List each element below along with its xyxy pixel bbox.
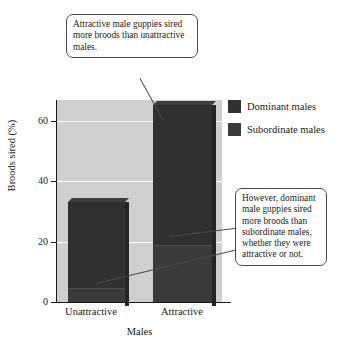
legend-item-dominant-males[interactable]: Dominant males xyxy=(228,96,325,117)
y-tick-label-0: 0 xyxy=(14,297,48,307)
bar-attractive-side-face xyxy=(212,105,216,306)
y-tick-mark-20 xyxy=(51,242,56,243)
bar-unattractive-dominant-segment xyxy=(68,202,125,302)
x-tick-label-unattractive: Unattractive xyxy=(50,306,132,317)
y-tick-label-40: 40 xyxy=(14,176,48,186)
x-tick-label-attractive: Attractive xyxy=(143,306,221,317)
bar-unattractive[interactable] xyxy=(68,202,125,302)
chart-figure: 60 40 20 0 Broods sired (%) Unattractive… xyxy=(0,0,346,353)
y-tick-mark-60 xyxy=(51,121,56,122)
bar-attractive-subordinate-segment xyxy=(153,245,212,302)
callout-attractive-vs-unattractive: Attractive male guppies sired more brood… xyxy=(66,14,198,58)
legend-swatch-dominant xyxy=(228,100,241,113)
legend-label-dominant: Dominant males xyxy=(247,101,316,112)
y-axis-line xyxy=(56,100,57,303)
bar-unattractive-subordinate-segment xyxy=(68,288,125,302)
bar-attractive[interactable] xyxy=(153,105,212,302)
x-axis-title: Males xyxy=(57,326,222,337)
legend-item-subordinate-males[interactable]: Subordinate males xyxy=(228,119,325,140)
legend-label-subordinate: Subordinate males xyxy=(247,124,325,135)
bar-unattractive-side-face xyxy=(125,202,129,306)
y-tick-label-60: 60 xyxy=(14,116,48,126)
y-tick-label-20: 20 xyxy=(14,237,48,247)
y-tick-mark-40 xyxy=(51,181,56,182)
callout-dominant-vs-subordinate: However, dominant male guppies sired mor… xyxy=(235,188,327,266)
legend-swatch-subordinate xyxy=(228,123,241,136)
x-axis-line xyxy=(56,302,231,303)
legend: Dominant males Subordinate males xyxy=(228,96,325,142)
y-axis-title: Broods sired (%) xyxy=(6,101,17,211)
y-tick-mark-0 xyxy=(51,302,56,303)
